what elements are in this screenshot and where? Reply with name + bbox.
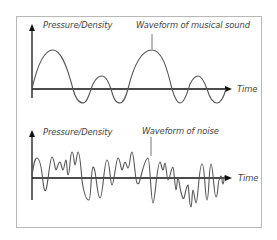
waveform-annotation: Waveform of noise (142, 126, 219, 136)
y-axis-label: Pressure/Density (43, 127, 113, 137)
y-axis-label: Pressure/Density (43, 20, 113, 30)
x-axis-arrow-icon (225, 86, 232, 92)
x-axis-label: Time (238, 173, 258, 183)
musical-waveform (32, 50, 226, 103)
noise-panel: Pressure/Density Waveform of noise Time (29, 126, 258, 207)
waveform-annotation: Waveform of musical sound (136, 20, 251, 30)
x-axis-label: Time (237, 84, 257, 94)
y-axis-arrow-icon (29, 130, 35, 137)
x-axis-arrow-icon (225, 175, 232, 181)
y-axis-arrow-icon (29, 24, 35, 31)
musical-sound-panel: Pressure/Density Waveform of musical sou… (29, 20, 257, 103)
waveform-diagram: Pressure/Density Waveform of musical sou… (0, 0, 277, 240)
noise-waveform (32, 152, 225, 207)
